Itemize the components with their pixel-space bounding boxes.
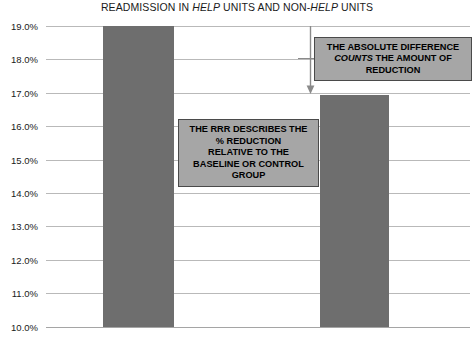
chart-figure: READMISSION IN HELP UNITS AND NON-HELP U… <box>0 0 474 349</box>
chart-title-part-2: UNITS AND NON- <box>220 1 310 13</box>
rrr-callout-line-2: RELATIVE TO THE <box>208 147 289 159</box>
absolute-callout-line-0: THE ABSOLUTE DIFFERENCE <box>327 42 459 54</box>
absolute-callout-line-1: COUNTS THE AMOUNT OF <box>334 53 452 65</box>
ytick-label-13: 13.0% <box>0 221 38 232</box>
rrr-callout-line-0: THE RRR DESCRIBES THE <box>190 124 308 136</box>
ytick-label-11: 11.0% <box>0 288 38 299</box>
ytick-label-15: 15.0% <box>0 154 38 165</box>
rrr-callout-line-1: % REDUCTION <box>216 136 281 148</box>
chart-title-part-3: HELP <box>310 1 338 13</box>
absolute-callout-connector <box>298 58 315 59</box>
absolute-difference-callout: THE ABSOLUTE DIFFERENCE COUNTS THE AMOUN… <box>314 37 472 81</box>
ytick-label-18: 18.0% <box>0 54 38 65</box>
ytick-label-10: 10.0% <box>0 321 38 332</box>
chart-title-part-4: UNITS <box>338 1 373 13</box>
rrr-callout-line-4: GROUP <box>232 170 266 182</box>
bar-with-intervention <box>320 95 389 327</box>
rrr-callout: THE RRR DESCRIBES THE % REDUCTION RELATI… <box>178 119 319 187</box>
ytick-label-12: 12.0% <box>0 254 38 265</box>
rrr-callout-line-3: BASELINE OR CONTROL <box>193 159 304 171</box>
absolute-callout-line-2: REDUCTION <box>366 65 421 77</box>
chart-title: READMISSION IN HELP UNITS AND NON-HELP U… <box>0 1 474 13</box>
ytick-label-16: 16.0% <box>0 121 38 132</box>
ytick-label-19: 19.0% <box>0 21 38 32</box>
chart-title-part-0: READMISSION IN <box>101 1 192 13</box>
chart-title-part-1: HELP <box>192 1 220 13</box>
ytick-label-17: 17.0% <box>0 87 38 98</box>
ytick-label-14: 14.0% <box>0 188 38 199</box>
bar-without-intervention <box>103 26 174 327</box>
